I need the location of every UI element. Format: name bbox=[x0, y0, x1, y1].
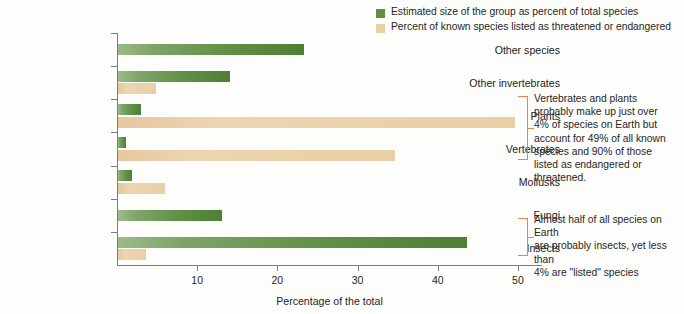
legend-swatch-tan bbox=[376, 24, 385, 33]
legend-swatch-green bbox=[376, 9, 385, 18]
category-label-other-species: Other species bbox=[495, 44, 560, 56]
x-axis-tick-label: 50 bbox=[512, 274, 524, 286]
x-axis-tick bbox=[358, 265, 359, 271]
annotation-line: probably make up just over bbox=[534, 105, 680, 118]
x-axis-line bbox=[117, 265, 542, 266]
bar-estimated-size bbox=[118, 237, 467, 248]
y-axis-tick bbox=[111, 33, 117, 34]
annotation-line: 4% of species on Earth but bbox=[534, 118, 680, 131]
annotation-line: Vertebrates and plants bbox=[534, 92, 680, 105]
y-axis-tick bbox=[111, 232, 117, 233]
bar-threatened bbox=[118, 83, 156, 94]
annotation-bracket-nub bbox=[527, 128, 534, 129]
bar-estimated-size bbox=[118, 71, 230, 82]
x-axis-title: Percentage of the total bbox=[117, 295, 542, 307]
x-axis-tick-label: 20 bbox=[272, 274, 284, 286]
y-axis-tick bbox=[111, 66, 117, 67]
bar-threatened bbox=[118, 183, 165, 194]
legend-item-threatened: Percent of known species listed as threa… bbox=[376, 21, 681, 33]
bar-estimated-size bbox=[118, 44, 304, 55]
legend-label-estimated-size: Estimated size of the group as percent o… bbox=[391, 6, 638, 18]
annotation-bracket bbox=[518, 96, 528, 160]
annotation-line: are probably insects, yet less than bbox=[534, 239, 680, 265]
chart-legend: Estimated size of the group as percent o… bbox=[376, 6, 681, 36]
x-axis-tick bbox=[518, 265, 519, 271]
chart-canvas: Estimated size of the group as percent o… bbox=[0, 0, 684, 314]
annotation-line: account for 49% of all known bbox=[534, 132, 680, 145]
annotation-line: listed as endangered or bbox=[534, 158, 680, 171]
y-axis-tick bbox=[111, 132, 117, 133]
legend-item-estimated-size: Estimated size of the group as percent o… bbox=[376, 6, 681, 18]
annotation-text-insects-note: Almost half of all species on Earthare p… bbox=[534, 213, 680, 279]
bar-estimated-size bbox=[118, 104, 141, 115]
annotation-line: threatened. bbox=[534, 171, 680, 184]
annotation-bracket bbox=[518, 218, 528, 256]
legend-label-threatened: Percent of known species listed as threa… bbox=[391, 21, 671, 33]
annotation-line: Almost half of all species on Earth bbox=[534, 213, 680, 239]
bar-threatened bbox=[118, 150, 395, 161]
annotation-bracket-nub bbox=[527, 237, 534, 238]
x-axis-tick bbox=[438, 265, 439, 271]
bar-threatened bbox=[118, 117, 515, 128]
y-axis-tick bbox=[111, 99, 117, 100]
y-axis-tick bbox=[111, 199, 117, 200]
x-axis-tick-label: 30 bbox=[352, 274, 364, 286]
bar-threatened bbox=[118, 249, 146, 260]
x-axis-tick bbox=[197, 265, 198, 271]
annotation-line: species and 90% of those bbox=[534, 145, 680, 158]
annotation-text-vertebrates-plants-note: Vertebrates and plantsprobably make up j… bbox=[534, 92, 680, 184]
bar-estimated-size bbox=[118, 210, 222, 221]
category-label-other-invertebrates: Other invertebrates bbox=[469, 77, 560, 89]
bar-estimated-size bbox=[118, 170, 132, 181]
x-axis-tick-label: 10 bbox=[191, 274, 203, 286]
x-axis-tick bbox=[277, 265, 278, 271]
y-axis-tick bbox=[111, 166, 117, 167]
plot-area: 1020304050 Percentage of the total bbox=[117, 33, 542, 265]
x-axis-tick-label: 40 bbox=[432, 274, 444, 286]
annotation-line: 4% are "listed" species bbox=[534, 266, 680, 279]
bar-estimated-size bbox=[118, 137, 126, 148]
